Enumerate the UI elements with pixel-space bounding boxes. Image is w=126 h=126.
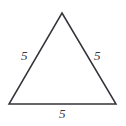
- side-label-left: 5: [21, 49, 28, 62]
- side-label-right: 5: [94, 49, 101, 62]
- side-label-bottom: 5: [59, 107, 66, 120]
- triangle-figure: 5 5 5: [0, 0, 126, 126]
